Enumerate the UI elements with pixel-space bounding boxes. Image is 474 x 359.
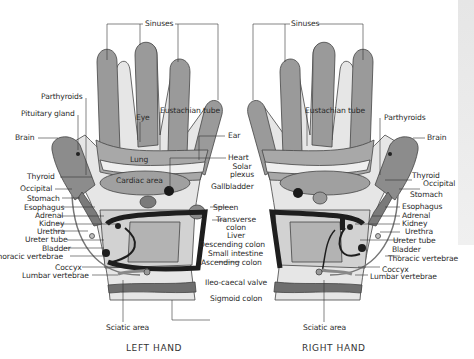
- label-brain-right: Brain: [427, 134, 446, 142]
- label-thyroid-left: Thyroid: [27, 173, 55, 181]
- label-parthyroids-right: Parthyroids: [384, 114, 426, 122]
- label-spleen: Spleen: [213, 204, 238, 212]
- label-ureter-tube-right: Ureter tube: [393, 237, 436, 245]
- label-sigmoid-colon: Sigmoid colon: [210, 295, 262, 303]
- label-eye: Eye: [136, 114, 150, 122]
- label-ileo-caecal-valve: Ileo-caecal valve: [205, 279, 267, 287]
- label-bladder-right: Bladder: [392, 246, 421, 254]
- label-gallbladder: Gallbladder: [211, 183, 254, 191]
- label-esophagus-right: Esophagus: [402, 203, 442, 211]
- label-sciatic-area-left: Sciatic area: [106, 324, 149, 332]
- label-brain-left: Brain: [15, 134, 34, 142]
- label-thoracic-vertebrae-left: Thoracic vertebrae: [0, 253, 63, 261]
- label-eustachian-tube-left: Eustachian tube: [160, 107, 220, 115]
- label-sciatic-area-right: Sciatic area: [303, 324, 346, 332]
- label-small-intestine: Small intestine: [208, 250, 263, 258]
- label-parthyroids-left: Parthyroids: [41, 93, 83, 101]
- label-stomach-right: Stomach: [410, 191, 443, 199]
- label-lung: Lung: [130, 156, 148, 164]
- label-descending-colon: Descending colon: [199, 241, 265, 249]
- label-lumbar-vertebrae-right: Lumbar vertebrae: [370, 273, 437, 281]
- label-sinuses-left: Sinuses: [145, 20, 173, 28]
- label-thoracic-vertebrae-right: Thoracic vertebrae: [388, 255, 458, 263]
- label-urethra-right: Urethra: [405, 228, 433, 236]
- left-hand-illustration: [52, 42, 223, 300]
- hand-reflexology-diagram: [0, 0, 474, 359]
- label-lumbar-vertebrae-left: Lumbar vertebrae: [22, 272, 89, 280]
- label-cardiac-area: Cardiac area: [116, 177, 163, 185]
- label-ureter-tube-left: Ureter tube: [25, 236, 68, 244]
- label-sinuses-right: Sinuses: [291, 20, 319, 28]
- left-hand-title: LEFT HAND: [126, 343, 182, 353]
- label-ascending-colon: Ascending colon: [201, 259, 262, 267]
- label-pituitary-gland: Pituitary gland: [21, 110, 75, 118]
- label-eustachian-tube-right: Eustachian tube: [305, 107, 365, 115]
- label-liver: Liver: [206, 232, 266, 240]
- label-heart: Heart: [228, 154, 249, 162]
- label-occipital-right: Occipital: [423, 180, 455, 188]
- label-ear: Ear: [228, 132, 240, 140]
- label-solar-line2: plexus: [225, 171, 259, 179]
- label-occipital-left: Occipital: [20, 185, 52, 193]
- label-stomach-left: Stomach: [27, 195, 60, 203]
- right-hand-title: RIGHT HAND: [302, 343, 366, 353]
